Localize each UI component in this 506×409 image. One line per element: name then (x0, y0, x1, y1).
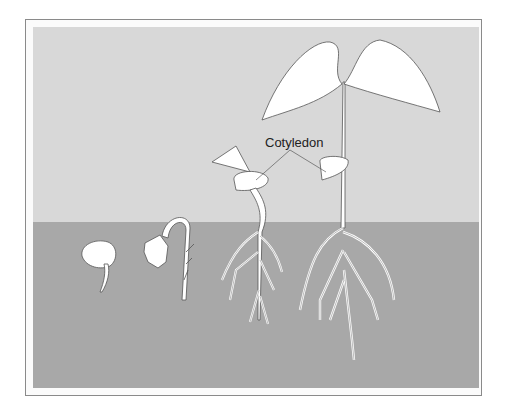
stage-1-seed (82, 241, 116, 292)
cotyledon-leader-lines (256, 150, 326, 180)
germination-illustration (0, 0, 506, 409)
stage-3-seedling (212, 146, 282, 324)
stage-2-hook (144, 218, 194, 300)
stage-4-young-plant (262, 40, 440, 360)
cotyledon-label: Cotyledon (265, 135, 324, 150)
